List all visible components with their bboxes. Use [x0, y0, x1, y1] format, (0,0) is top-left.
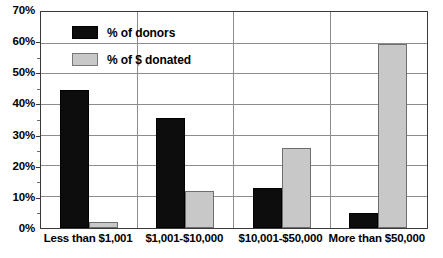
bar-chart: 70% 60% 50% 40% 30% 20% 10% 0% % of dono…	[0, 0, 443, 258]
bar-donated	[185, 191, 214, 228]
y-tick-label: 70%	[1, 5, 35, 17]
legend-entry-donated: % of $ donated	[72, 49, 191, 70]
black-square-swatch-icon	[72, 26, 98, 39]
bar-donors	[156, 118, 185, 228]
chart-legend: % of donors % of $ donated	[72, 22, 191, 76]
bar-donors	[60, 90, 89, 228]
x-tick-label: More than $50,000	[329, 232, 425, 244]
x-tick-label: $1,001-$10,000	[136, 232, 232, 244]
y-tick-label: 50%	[1, 68, 35, 80]
x-axis-category-labels: Less than $1,001 $1,001-$10,000 $10,001-…	[40, 232, 428, 254]
legend-entry-donors: % of donors	[72, 22, 191, 43]
y-axis-tick-labels: 70% 60% 50% 40% 30% 20% 10% 0%	[0, 0, 38, 258]
y-tick-label: 60%	[1, 36, 35, 48]
y-tick-label: 20%	[1, 161, 35, 173]
bar-donors	[349, 213, 378, 228]
bar-donated	[89, 222, 118, 228]
category-separator	[330, 12, 331, 228]
y-tick-label: 30%	[1, 130, 35, 142]
legend-label: % of donors	[107, 26, 175, 40]
category-separator	[233, 12, 234, 228]
y-tick-label: 40%	[1, 99, 35, 111]
bar-donated	[378, 44, 407, 228]
legend-label: % of $ donated	[107, 53, 191, 67]
x-tick-label: Less than $1,001	[40, 232, 136, 244]
x-tick-label: $10,001-$50,000	[232, 232, 328, 244]
y-tick-label: 0%	[1, 223, 35, 235]
bar-donated	[282, 148, 311, 228]
gray-square-swatch-icon	[72, 53, 98, 66]
bar-donors	[253, 188, 282, 228]
y-tick-label: 10%	[1, 192, 35, 204]
